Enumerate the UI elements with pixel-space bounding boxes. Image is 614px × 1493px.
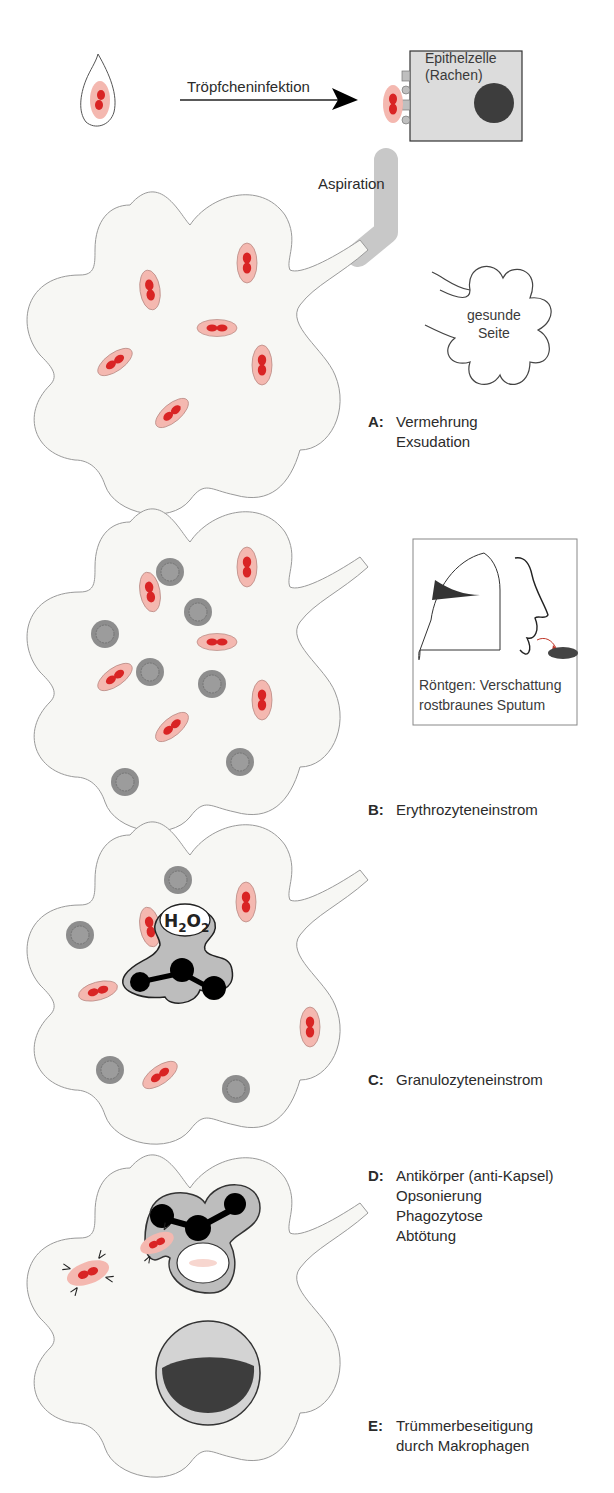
macrophage — [156, 1321, 260, 1425]
epithelial-cell-label: Epithelzelle (Rachen) — [425, 50, 497, 84]
healthy-side-line2: Seite — [478, 325, 510, 341]
panel-e-line2: durch Makrophagen — [368, 1436, 533, 1456]
panel-a-caption: A:Vermehrung Exsudation — [368, 412, 478, 452]
panel-b-alveolus — [27, 509, 368, 831]
healthy-side-line1: gesunde — [467, 307, 521, 323]
healthy-side-label: gesunde Seite — [467, 306, 521, 342]
panel-e-line1: Trümmerbeseitigung — [396, 1417, 533, 1434]
inset-line1: Röntgen: Verschattung — [419, 677, 561, 693]
panel-d-key: D: — [368, 1166, 396, 1186]
h2o2-sub1: 2 — [178, 921, 186, 935]
panel-d-line1: Antikörper (anti-Kapsel) — [396, 1167, 554, 1184]
aspiration-label: Aspiration — [318, 174, 385, 194]
panel-b-line1: Erythrozyteneinstrom — [396, 801, 538, 818]
transmission-label: Tröpfcheninfektion — [187, 77, 310, 97]
panel-d-caption: D:Antikörper (anti-Kapsel) Opsonierung P… — [368, 1166, 554, 1246]
droplet-icon — [81, 54, 115, 126]
panel-c-key: C: — [368, 1070, 396, 1090]
panel-a-line1: Vermehrung — [396, 413, 478, 430]
panel-c-caption: C:Granulozyteneinstrom — [368, 1070, 543, 1090]
panel-de-alveolus — [27, 1155, 368, 1477]
panel-a-line2: Exsudation — [368, 432, 478, 452]
h2o2-h: H — [164, 911, 178, 931]
inset-caption: Röntgen: Verschattung rostbraunes Sputum — [419, 675, 561, 715]
panel-d-line3: Phagozytose — [368, 1206, 554, 1226]
panel-a-key: A: — [368, 412, 396, 432]
epithelial-label-line2: (Rachen) — [425, 67, 483, 83]
h2o2-sub2: 2 — [201, 921, 209, 935]
panel-a-alveolus — [27, 192, 368, 514]
panel-e-caption: E:Trümmerbeseitigung durch Makrophagen — [368, 1416, 533, 1456]
inset-line2: rostbraunes Sputum — [419, 697, 545, 713]
panel-b-key: B: — [368, 800, 396, 820]
panel-c-alveolus: H2O2 — [27, 822, 368, 1144]
h2o2-o: O — [187, 911, 201, 931]
panel-d-line4: Abtötung — [368, 1226, 554, 1246]
panel-c-line1: Granulozyteneinstrom — [396, 1071, 543, 1088]
epithelial-label-line1: Epithelzelle — [425, 50, 497, 66]
panel-b-caption: B:Erythrozyteneinstrom — [368, 800, 538, 820]
pneumococcal-pneumonia-diagram: H2O2 — [0, 0, 614, 1493]
panel-d-line2: Opsonierung — [368, 1186, 554, 1206]
panel-e-key: E: — [368, 1416, 396, 1436]
